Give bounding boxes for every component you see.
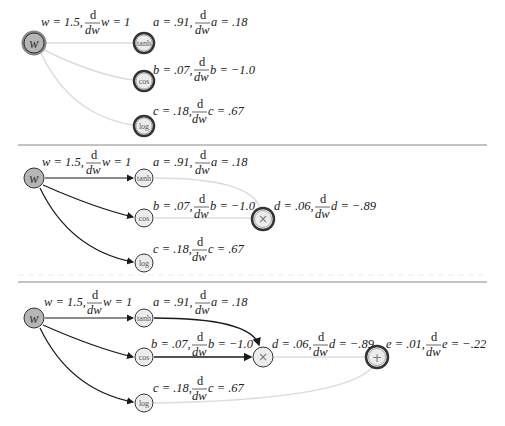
svg-text:w = 1: w = 1: [102, 155, 131, 169]
label-a: a = .91, d dw a = .18: [153, 148, 248, 177]
svg-text:w: w: [29, 171, 39, 186]
svg-text:dw: dw: [195, 23, 210, 37]
svg-text:d = −.89: d = −.89: [331, 199, 377, 213]
svg-text:dw: dw: [194, 207, 209, 221]
svg-text:d: d: [200, 8, 207, 22]
edge-w-log: [40, 328, 133, 402]
svg-text:d: d: [431, 330, 438, 344]
svg-text:c = .67: c = .67: [208, 381, 245, 395]
svg-text:tanh: tanh: [137, 174, 151, 183]
label-w: w = 1.5, d dw w = 1: [41, 8, 130, 37]
label-e: e = .01, d dw e = −.22: [386, 330, 486, 359]
svg-text:+: +: [372, 351, 382, 365]
node-cos: cos: [135, 209, 153, 227]
node-cos: cos: [134, 71, 154, 91]
svg-text:d: d: [197, 235, 204, 249]
computation-graph-figure: w tanh cos log w = 1.5, d dw w = 1 a = .…: [0, 0, 505, 426]
label-d: d = .06, d dw d = −.89: [272, 330, 375, 359]
svg-text:d: d: [200, 148, 207, 162]
svg-text:a = .18: a = .18: [211, 15, 248, 29]
node-multiply: ×: [253, 347, 273, 367]
svg-text:w: w: [29, 36, 39, 51]
svg-text:×: ×: [258, 212, 268, 226]
label-b: b = .07, d dw b = −1.0: [153, 55, 256, 84]
label-a: a = .91, d dw a = .18: [153, 288, 248, 317]
svg-text:b = .07,: b = .07,: [151, 337, 191, 351]
svg-text:dw: dw: [192, 389, 207, 403]
svg-text:log: log: [139, 259, 149, 268]
svg-text:dw: dw: [313, 345, 328, 359]
svg-text:a = .91,: a = .91,: [153, 15, 193, 29]
svg-text:d = −.89: d = −.89: [329, 337, 375, 351]
label-b: b = .07, d dw b = −1.0: [153, 192, 256, 221]
svg-text:e = .01,: e = .01,: [386, 337, 425, 351]
svg-text:tanh: tanh: [137, 39, 151, 48]
svg-text:cos: cos: [139, 214, 150, 223]
label-c: c = .18, d dw c = .67: [153, 97, 245, 126]
panel-2: w tanh cos log × w = 1.5, d dw w = 1 a =…: [24, 148, 377, 272]
svg-text:w = 1: w = 1: [101, 15, 130, 29]
edge-w-log: [40, 188, 133, 262]
node-w: w: [24, 308, 44, 328]
svg-text:c = .18,: c = .18,: [153, 242, 192, 256]
node-multiply: ×: [252, 208, 274, 230]
svg-text:cos: cos: [139, 77, 150, 86]
label-a: a = .91, d dw a = .18: [153, 8, 248, 37]
svg-text:b = .07,: b = .07,: [153, 199, 193, 213]
svg-text:dw: dw: [192, 345, 207, 359]
svg-text:dw: dw: [194, 70, 209, 84]
edge-w-cos: [43, 185, 133, 217]
svg-text:w = 1.5,: w = 1.5,: [41, 15, 83, 29]
svg-text:log: log: [139, 122, 149, 131]
svg-text:d: d: [197, 374, 204, 388]
svg-text:dw: dw: [195, 303, 210, 317]
edge-w-log: [41, 53, 133, 125]
label-b: b = .07, d dw b = −1.0: [151, 330, 254, 359]
svg-text:dw: dw: [195, 163, 210, 177]
svg-text:c = .18,: c = .18,: [153, 104, 192, 118]
svg-text:w = 1.5,: w = 1.5,: [42, 155, 84, 169]
svg-text:dw: dw: [192, 250, 207, 264]
label-w: w = 1.5, d dw w = 1: [42, 148, 131, 177]
label-w: w = 1.5, d dw w = 1: [44, 288, 132, 317]
svg-text:cos: cos: [139, 353, 150, 362]
svg-text:dw: dw: [315, 207, 330, 221]
svg-text:log: log: [139, 399, 149, 408]
svg-text:a = .18: a = .18: [211, 155, 248, 169]
node-tanh: tanh: [134, 33, 154, 53]
panel-1: w tanh cos log w = 1.5, d dw w = 1 a = .…: [23, 8, 256, 136]
svg-text:d: d: [91, 148, 98, 162]
label-c: c = .18, d dw c = .67: [153, 235, 245, 264]
svg-text:e = −.22: e = −.22: [442, 337, 486, 351]
node-log: log: [135, 254, 153, 272]
svg-text:c = .18,: c = .18,: [153, 381, 192, 395]
svg-text:c = .67: c = .67: [208, 104, 245, 118]
svg-text:tanh: tanh: [137, 314, 151, 323]
label-d: d = .06, d dw d = −.89: [274, 192, 377, 221]
edge-w-cos: [44, 50, 133, 80]
svg-text:dw: dw: [85, 23, 100, 37]
svg-text:w = 1.5,: w = 1.5,: [44, 295, 86, 309]
svg-text:dw: dw: [87, 303, 102, 317]
svg-text:dw: dw: [86, 163, 101, 177]
node-tanh: tanh: [135, 169, 153, 187]
label-c: c = .18, d dw c = .67: [153, 374, 245, 403]
panel-3: w tanh cos log × + w = 1.5, d dw w =: [24, 288, 486, 412]
node-w: w: [24, 168, 44, 188]
svg-text:dw: dw: [192, 112, 207, 126]
svg-text:d = .06,: d = .06,: [274, 199, 314, 213]
node-w: w: [23, 32, 45, 54]
svg-text:b = −1.0: b = −1.0: [210, 63, 256, 77]
node-tanh: tanh: [135, 309, 153, 327]
svg-text:w: w: [29, 311, 39, 326]
svg-text:c = .67: c = .67: [208, 242, 245, 256]
svg-text:dw: dw: [426, 345, 441, 359]
svg-text:d: d: [200, 288, 207, 302]
svg-text:d: d: [197, 97, 204, 111]
svg-text:d: d: [199, 55, 206, 69]
svg-text:b = −1.0: b = −1.0: [208, 337, 254, 351]
svg-text:d: d: [92, 288, 99, 302]
svg-text:d: d: [90, 8, 97, 22]
edge-w-cos: [43, 325, 133, 357]
svg-text:a = .18: a = .18: [211, 295, 248, 309]
